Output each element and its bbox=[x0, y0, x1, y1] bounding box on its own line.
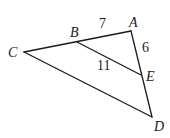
measure-ae: 6 bbox=[142, 40, 149, 55]
point-label-b: B bbox=[70, 25, 79, 40]
triangle-diagram: A B C D E 7 6 11 bbox=[0, 0, 170, 138]
segment-cd bbox=[24, 52, 152, 117]
point-label-d: D bbox=[153, 119, 164, 134]
point-label-a: A bbox=[128, 15, 138, 30]
point-label-e: E bbox=[145, 69, 155, 84]
point-label-c: C bbox=[8, 45, 18, 60]
measure-be: 11 bbox=[97, 58, 110, 73]
measure-ab: 7 bbox=[99, 16, 106, 31]
